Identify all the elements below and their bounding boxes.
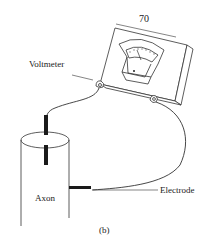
panel-label: (b): [99, 226, 110, 235]
terminal-right: [150, 96, 158, 103]
wire-left: [46, 88, 99, 122]
voltmeter-label: Voltmeter: [29, 60, 64, 69]
recording-electrode-upper: [44, 115, 48, 135]
wire-right: [92, 102, 186, 190]
axon-label: Axon: [35, 194, 55, 203]
meter-reading-label: 70: [139, 14, 149, 24]
electrode-label: Electrode: [160, 186, 194, 195]
terminal-left: [96, 81, 104, 88]
voltmeter-axon-diagram: [0, 0, 214, 252]
recording-electrode-inner: [44, 145, 48, 165]
reference-electrode: [69, 186, 91, 189]
